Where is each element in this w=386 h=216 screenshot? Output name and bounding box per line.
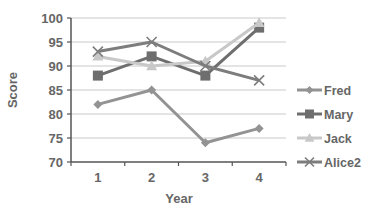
triangle-marker-icon [254,17,265,27]
y-axis-ticks: 707580859095100 [41,11,71,170]
legend-label: Fred [324,84,351,98]
square-marker-icon [200,71,210,81]
line-chart: 707580859095100 1234 Score Year FredMary… [0,0,386,216]
diamond-marker-icon [305,86,313,94]
square-marker-icon [147,51,157,61]
y-tick-label: 75 [49,131,63,146]
x-axis-ticks: 1234 [71,162,286,185]
x-axis-title: Year [165,191,192,206]
y-tick-label: 70 [49,155,63,170]
series-line [98,28,259,76]
legend-item-alice2: Alice2 [297,156,361,170]
square-marker-icon [93,71,103,81]
legend-item-jack: Jack [297,132,352,146]
y-tick-label: 80 [49,107,63,122]
legend-label: Mary [324,108,353,122]
y-axis-title: Score [5,72,20,108]
legend-item-mary: Mary [297,108,353,122]
square-marker-icon [305,110,314,119]
legend-item-fred: Fred [297,84,351,98]
y-tick-label: 100 [41,11,63,26]
diamond-marker-icon [93,100,102,109]
y-tick-label: 85 [49,83,63,98]
legend: FredMaryJackAlice2 [297,84,361,170]
diamond-marker-icon [255,124,264,133]
series-line [98,90,259,143]
series-lines [92,17,264,147]
y-tick-label: 95 [49,35,63,50]
series-line [98,23,259,66]
x-tick-label: 3 [202,170,209,185]
x-tick-label: 4 [256,170,264,185]
series-mary [93,23,264,81]
x-tick-label: 2 [148,170,155,185]
series-jack [92,17,264,70]
y-tick-label: 90 [49,59,63,74]
legend-label: Alice2 [324,156,361,170]
x-tick-label: 1 [94,170,101,185]
legend-label: Jack [324,132,352,146]
